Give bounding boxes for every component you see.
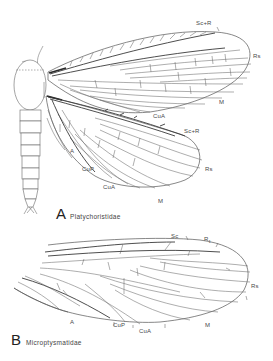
label-b-r1: R1 xyxy=(204,236,211,244)
label-hindwing-sc-r: Sc+R xyxy=(184,128,200,134)
panel-b-letter: B xyxy=(11,332,21,347)
label-hindwing-cua: CuA xyxy=(103,184,115,190)
panel-b-wing xyxy=(14,236,250,328)
label-hindwing-a: A xyxy=(70,148,74,154)
panel-a-family-name: Platychoristidae xyxy=(70,214,121,221)
label-b-a: A xyxy=(70,319,74,325)
label-forewing-m: M xyxy=(219,99,224,105)
label-hindwing-m: M xyxy=(158,198,163,204)
label-hindwing-cup: CuP xyxy=(82,166,94,172)
label-b-sc: Sc xyxy=(171,233,178,239)
label-hindwing-rs: Rs xyxy=(205,166,213,172)
label-forewing-cua: CuA xyxy=(153,113,165,119)
label-forewing-rs: Rs xyxy=(253,53,261,59)
panel-a-insect-body xyxy=(14,46,46,214)
label-b-cup: CuP xyxy=(113,322,125,328)
label-b-r1-sub: 1 xyxy=(209,239,211,244)
label-b-cua: CuA xyxy=(139,328,151,334)
panel-a-letter: A xyxy=(56,206,66,221)
panel-b-family-name: Microptysmatidae xyxy=(26,340,82,347)
label-forewing-sc-r: Sc+R xyxy=(196,20,212,26)
label-b-m: M xyxy=(205,322,210,328)
wing-venation-figure: Sc+R Rs M CuA Sc+R Rs A CuP CuA M A Plat… xyxy=(0,0,273,361)
panel-a-hindwing xyxy=(44,82,202,188)
label-b-rs: Rs xyxy=(251,283,259,289)
venation-drawing xyxy=(0,0,273,361)
